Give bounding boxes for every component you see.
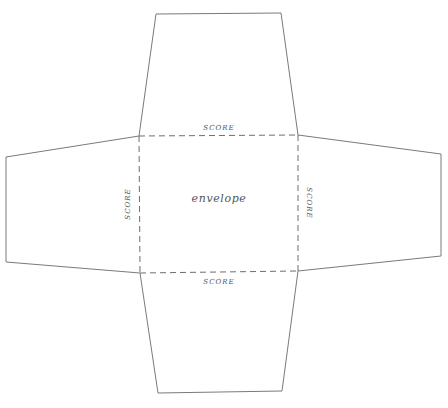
score-label-right: SCORE [305,187,313,218]
score-label-top: SCORE [203,124,234,132]
right-flap-outline [298,135,441,271]
bottom-flap-outline [140,271,298,393]
score-label-left: SCORE [124,188,132,219]
score-line-top [139,135,298,136]
top-flap-outline [139,13,298,136]
score-line-bottom [140,271,298,273]
score-label-bottom: SCORE [203,278,234,286]
left-flap-outline [6,136,140,273]
score-line-left [139,136,140,273]
envelope-label: envelope [192,192,247,205]
envelope-template: SCORE SCORE SCORE SCORE envelope [0,0,448,408]
